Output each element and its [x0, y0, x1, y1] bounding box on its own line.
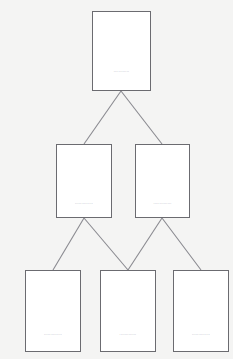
node-root-label: ............	[98, 69, 145, 73]
node-leaf-right[interactable]: ..............	[173, 270, 229, 352]
connector-middle-right-to-leaf-middle	[128, 218, 162, 270]
node-middle-right[interactable]: ..............	[135, 144, 190, 218]
connector-middle-right-to-leaf-right	[162, 218, 201, 270]
connector-middle-left-to-leaf-left	[53, 218, 84, 270]
node-leaf-left[interactable]: ..............	[25, 270, 81, 352]
node-leaf-right-label: ..............	[179, 332, 223, 336]
connector-root-to-middle-right	[121, 91, 162, 144]
node-leaf-middle-label: .............	[106, 332, 150, 336]
connector-middle-left-to-leaf-middle	[84, 218, 128, 270]
diagram-canvas: ............ .............. ............…	[0, 0, 233, 359]
node-middle-left-label: ..............	[62, 201, 106, 205]
node-root[interactable]: ............	[92, 11, 151, 91]
connector-root-to-middle-left	[84, 91, 121, 144]
node-middle-left[interactable]: ..............	[56, 144, 112, 218]
node-leaf-left-label: ..............	[31, 332, 75, 336]
node-middle-right-label: ..............	[141, 201, 184, 205]
node-leaf-middle[interactable]: .............	[100, 270, 156, 352]
